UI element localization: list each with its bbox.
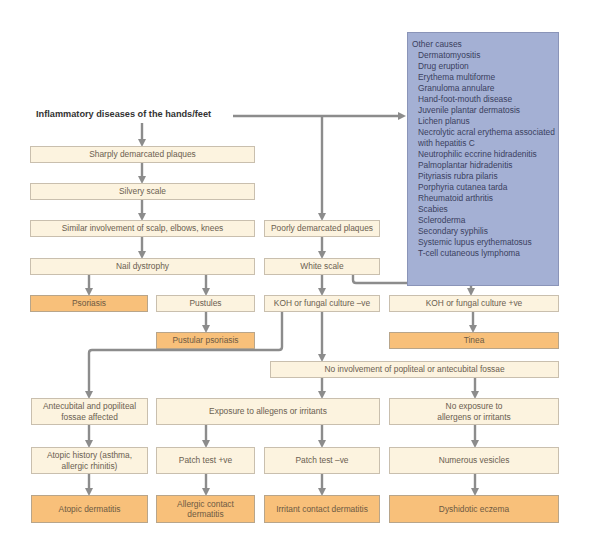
node-poorly-demarcated: Poorly demarcated plaques [264, 220, 380, 237]
other-cause-item: Pityriasis rubra pilaris [412, 171, 554, 182]
node-numerous-vesicles: Numerous vesicles [389, 447, 559, 474]
diagnosis-irritant-contact-dermatitis: Irritant contact dermatitis [264, 495, 380, 523]
other-cause-item: with hepatitis C [412, 138, 554, 149]
other-cause-item: Granuloma annulare [412, 83, 554, 94]
other-causes-box: Other causes Dermatomyositis Drug erupti… [407, 32, 559, 286]
other-cause-item: Erythema multiforme [412, 72, 554, 83]
node-antecubital-affected: Antecubital and popiliteal fossae affect… [31, 398, 148, 425]
other-cause-item: T-cell cutaneous lymphoma [412, 248, 554, 259]
other-cause-item: Lichen planus [412, 116, 554, 127]
other-cause-item: Rheumatoid arthritis [412, 193, 554, 204]
node-no-involvement: No involvement of popliteal or antecubit… [270, 361, 559, 378]
other-cause-item: Neutrophilic eccrine hidradenitis [412, 149, 554, 160]
node-atopic-history: Atopic history (asthma, allergic rhiniti… [31, 447, 148, 474]
diagnosis-atopic-dermatitis: Atopic dermatitis [31, 495, 148, 523]
other-cause-item: Scabies [412, 204, 554, 215]
other-cause-item: Hand-foot-mouth disease [412, 94, 554, 105]
diagnosis-tinea: Tinea [389, 332, 559, 349]
node-silvery-scale: Silvery scale [30, 183, 255, 200]
other-cause-item: Dermatomyositis [412, 50, 554, 61]
diagnosis-allergic-contact-dermatitis: Allergic contact dermatitis [156, 495, 255, 523]
other-cause-item: Systemic lupus erythematosus [412, 237, 554, 248]
diagnosis-dyshidrotic-eczema: Dyshidotic eczema [389, 495, 559, 523]
other-cause-item: Necrolytic acral erythema associated [412, 127, 554, 138]
diagnosis-pustular-psoriasis: Pustular psoriasis [156, 332, 255, 349]
other-cause-item: Scleroderma [412, 215, 554, 226]
node-koh-negative: KOH or fungal culture –ve [264, 295, 380, 312]
other-cause-item: Drug eruption [412, 61, 554, 72]
other-cause-item: Juvenile plantar dermatosis [412, 105, 554, 116]
node-white-scale: White scale [264, 258, 380, 275]
node-similar-involvement: Similar involvement of scalp, elbows, kn… [30, 220, 255, 237]
node-pustules: Pustules [156, 295, 255, 312]
node-patch-test-positive: Patch test +ve [156, 447, 255, 474]
node-koh-positive: KOH or fungal culture +ve [389, 295, 559, 312]
other-cause-item: Palmoplantar hidradenitis [412, 160, 554, 171]
node-nail-dystrophy: Nail dystrophy [30, 258, 255, 275]
node-no-exposure: No exposure to allergens or irritants [389, 398, 559, 425]
other-cause-item: Porphyria cutanea tarda [412, 182, 554, 193]
node-sharply-demarcated: Sharply demarcated plaques [30, 146, 255, 163]
other-cause-item: Secondary syphilis [412, 226, 554, 237]
node-patch-test-negative: Patch test –ve [264, 447, 380, 474]
diagram-title: Inflammatory diseases of the hands/feet [36, 109, 211, 119]
other-causes-heading: Other causes [412, 39, 554, 50]
diagnosis-psoriasis: Psoriasis [30, 295, 148, 312]
node-exposure: Exposure to allegens or irritants [156, 398, 380, 425]
